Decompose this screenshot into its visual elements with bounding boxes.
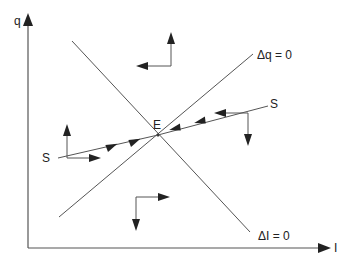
delta-i-locus bbox=[72, 41, 250, 232]
saddle-path-label-right: S bbox=[270, 97, 278, 111]
equilibrium-label: E bbox=[153, 118, 161, 132]
delta-q-locus-label: Δq = 0 bbox=[257, 48, 292, 62]
dynamics-arrows-bottom bbox=[132, 193, 170, 231]
x-axis-label: I bbox=[334, 241, 337, 255]
delta-i-locus-label: ΔI = 0 bbox=[258, 229, 290, 243]
arrow-left-icon bbox=[214, 109, 226, 117]
y-axis-label: q bbox=[14, 14, 21, 28]
saddle-arrow-icon bbox=[105, 142, 118, 152]
x-axis bbox=[28, 243, 331, 253]
dynamics-arrows-right-saddle bbox=[214, 109, 252, 146]
arrow-right-icon bbox=[89, 154, 101, 162]
y-axis-arrowhead-icon bbox=[23, 13, 33, 26]
x-axis-arrowhead-icon bbox=[318, 243, 331, 253]
dynamics-arrows-left-saddle bbox=[63, 124, 101, 162]
arrow-up-icon bbox=[167, 32, 175, 44]
arrow-up-icon bbox=[63, 124, 71, 136]
phase-diagram: q I Δq = 0 ΔI = 0 E S S bbox=[0, 0, 348, 265]
saddle-path-label-left: S bbox=[42, 151, 50, 165]
arrow-right-icon bbox=[158, 193, 170, 201]
arrow-down-icon bbox=[244, 134, 252, 146]
y-axis bbox=[23, 13, 33, 248]
arrow-left-icon bbox=[136, 62, 148, 70]
arrow-down-icon bbox=[132, 219, 140, 231]
dynamics-arrows-top bbox=[136, 32, 175, 70]
saddle-path bbox=[58, 106, 268, 158]
